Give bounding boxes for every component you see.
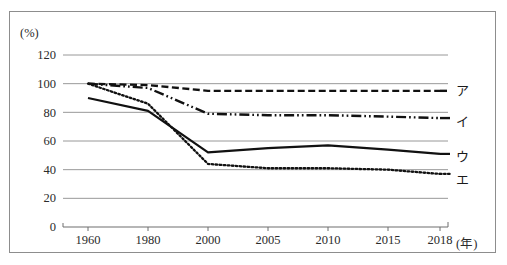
y-axis-unit-label: (%) bbox=[20, 26, 39, 41]
y-tick-label-120: 120 bbox=[22, 48, 56, 63]
series-line-エ bbox=[88, 84, 440, 174]
legend-label-e: エ bbox=[456, 169, 469, 188]
y-tick-label-40: 40 bbox=[22, 163, 56, 178]
x-tick-label-2010: 2010 bbox=[303, 233, 353, 248]
chart-screenshot: (%) (年) 120 100 80 60 40 20 0 1960 1980 … bbox=[0, 0, 507, 265]
x-tick-label-2000: 2000 bbox=[183, 233, 233, 248]
x-tick-label-2018: 2018 bbox=[415, 233, 465, 248]
legend-label-i: イ bbox=[456, 111, 469, 130]
x-tick-label-2005: 2005 bbox=[243, 233, 293, 248]
y-tick-label-60: 60 bbox=[22, 134, 56, 149]
y-tick-label-100: 100 bbox=[22, 77, 56, 92]
series-lines bbox=[88, 84, 450, 174]
series-line-ウ bbox=[88, 98, 440, 154]
y-tick-label-20: 20 bbox=[22, 191, 56, 206]
y-tick-label-80: 80 bbox=[22, 106, 56, 121]
y-tick-label-0: 0 bbox=[22, 220, 56, 235]
chart-plot-area bbox=[0, 0, 507, 265]
x-tick-label-1980: 1980 bbox=[123, 233, 173, 248]
legend-label-u: ウ bbox=[456, 146, 469, 165]
gridlines bbox=[63, 55, 448, 198]
x-tick-label-2015: 2015 bbox=[363, 233, 413, 248]
legend-label-a: ア bbox=[456, 80, 469, 99]
x-tick-label-1960: 1960 bbox=[63, 233, 113, 248]
